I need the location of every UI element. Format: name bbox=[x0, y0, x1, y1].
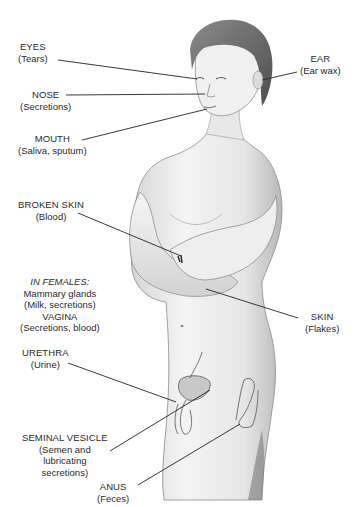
label-seminal-vesicle-sub-1: (Semen and bbox=[22, 444, 108, 456]
label-anus: ANUS (Feces) bbox=[97, 481, 129, 504]
leader-mouth bbox=[82, 109, 207, 140]
label-nose: NOSE (Secretions) bbox=[20, 89, 71, 112]
torso bbox=[131, 120, 282, 500]
label-ear: EAR (Ear wax) bbox=[300, 53, 341, 76]
label-anus-sub: (Feces) bbox=[97, 493, 129, 505]
label-eyes-title: EYES bbox=[18, 41, 48, 53]
leader-nose bbox=[66, 94, 205, 95]
label-skin-sub: (Flakes) bbox=[305, 323, 339, 335]
label-in-females-heading: IN FEMALES: bbox=[20, 276, 100, 288]
label-seminal-vesicle: SEMINAL VESICLE (Semen and lubricating s… bbox=[22, 432, 108, 478]
label-mouth-title: MOUTH bbox=[18, 133, 87, 145]
label-seminal-vesicle-sub-2: lubricating bbox=[22, 455, 108, 467]
label-broken-skin-title: BROKEN SKIN bbox=[18, 199, 84, 211]
label-anus-title: ANUS bbox=[97, 481, 129, 493]
label-eyes: EYES (Tears) bbox=[18, 41, 48, 64]
leader-urethra bbox=[68, 363, 176, 402]
label-eyes-sub: (Tears) bbox=[18, 53, 48, 65]
head bbox=[190, 20, 272, 116]
label-skin-title: SKIN bbox=[305, 311, 339, 323]
label-nose-sub: (Secretions) bbox=[20, 101, 71, 113]
leader-eyes bbox=[58, 60, 197, 79]
body-illustration bbox=[0, 0, 360, 507]
label-seminal-vesicle-sub-3: secretions) bbox=[22, 467, 108, 479]
label-in-females-line-1: Mammary glands bbox=[20, 288, 100, 300]
label-seminal-vesicle-title: SEMINAL VESICLE bbox=[22, 432, 108, 444]
label-nose-title: NOSE bbox=[20, 89, 71, 101]
label-in-females-line-4: (Secretions, blood) bbox=[20, 322, 100, 334]
label-ear-title: EAR bbox=[300, 53, 341, 65]
label-mouth: MOUTH (Saliva, sputum) bbox=[18, 133, 87, 156]
label-broken-skin: BROKEN SKIN (Blood) bbox=[18, 199, 84, 222]
label-urethra: URETHRA (Urine) bbox=[22, 347, 69, 370]
label-skin: SKIN (Flakes) bbox=[305, 311, 339, 334]
label-urethra-title: URETHRA bbox=[22, 347, 69, 359]
label-mouth-sub: (Saliva, sputum) bbox=[18, 145, 87, 157]
label-in-females-line-3: VAGINA bbox=[20, 311, 100, 323]
label-in-females: IN FEMALES: Mammary glands (Milk, secret… bbox=[20, 276, 100, 334]
label-in-females-line-2: (Milk, secretions) bbox=[20, 299, 100, 311]
label-broken-skin-sub: (Blood) bbox=[18, 211, 84, 223]
ear-shape bbox=[253, 71, 263, 89]
label-urethra-sub: (Urine) bbox=[22, 359, 69, 371]
label-ear-sub: (Ear wax) bbox=[300, 65, 341, 77]
